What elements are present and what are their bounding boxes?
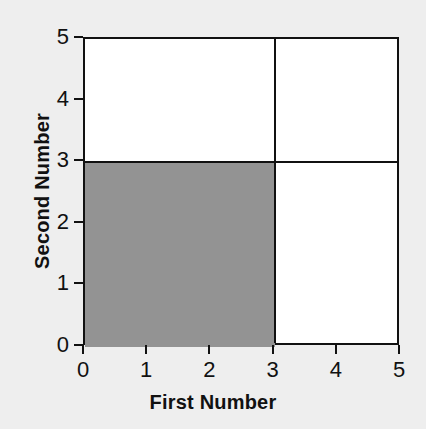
y-tick-mark <box>74 282 83 284</box>
divider-line-horizontal <box>85 161 397 163</box>
x-tick-mark <box>335 345 337 354</box>
chart-figure: 012345 012345 First Number Second Number <box>0 0 426 429</box>
y-tick-mark <box>74 159 83 161</box>
x-tick-label: 3 <box>266 359 278 381</box>
x-tick-label: 5 <box>393 359 405 381</box>
x-tick-mark <box>272 345 274 354</box>
x-tick-mark <box>82 345 84 354</box>
x-axis-title: First Number <box>0 391 426 414</box>
plot-area <box>83 37 399 345</box>
x-tick-label: 2 <box>203 359 215 381</box>
x-tick-label: 0 <box>77 359 89 381</box>
shaded-region-lower-left <box>85 162 275 347</box>
y-axis-title: Second Number <box>28 37 56 345</box>
y-tick-mark <box>74 221 83 223</box>
y-tick-mark <box>74 98 83 100</box>
x-tick-mark <box>398 345 400 354</box>
y-tick-mark <box>74 344 83 346</box>
y-tick-mark <box>74 36 83 38</box>
x-tick-mark <box>145 345 147 354</box>
x-tick-label: 1 <box>140 359 152 381</box>
x-tick-label: 4 <box>330 359 342 381</box>
divider-line-vertical <box>274 39 276 343</box>
x-tick-mark <box>208 345 210 354</box>
